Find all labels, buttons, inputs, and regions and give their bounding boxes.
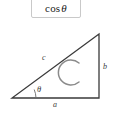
adjacent-side-label: a: [53, 101, 57, 109]
angle-theta-label: θ: [37, 85, 41, 94]
triangle-outline: [12, 34, 99, 98]
right-triangle-diagram: [0, 0, 113, 113]
trigonometry-diagram-screenshot: cosθ c b a θ: [0, 0, 113, 113]
hypotenuse-label: c: [42, 54, 46, 62]
letter-c-glyph: [58, 60, 79, 85]
angle-arc: [34, 90, 36, 99]
opposite-side-label: b: [103, 63, 107, 71]
